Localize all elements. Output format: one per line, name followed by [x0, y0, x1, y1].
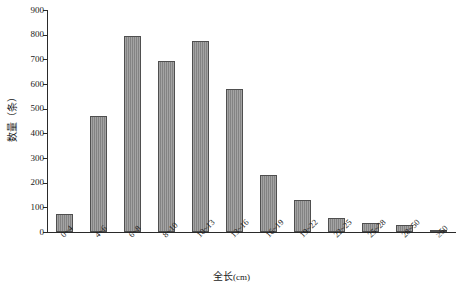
y-tick-label: 100: [18, 203, 44, 212]
y-tick-label: 300: [18, 154, 44, 163]
y-tick-mark: [43, 207, 47, 208]
y-tick-label: 400: [18, 129, 44, 138]
y-tick-mark: [43, 84, 47, 85]
plot-area: [47, 10, 456, 232]
y-tick-mark: [43, 35, 47, 36]
y-tick-mark: [43, 133, 47, 134]
bar: [226, 89, 243, 232]
y-tick-mark: [43, 10, 47, 11]
y-tick-mark: [43, 158, 47, 159]
y-tick-mark: [43, 109, 47, 110]
bars-layer: [47, 10, 456, 232]
bar: [90, 116, 107, 232]
bar: [192, 41, 209, 232]
x-axis-title: 全长(cm): [0, 268, 463, 283]
y-tick-label: 900: [18, 6, 44, 15]
x-axis-tick-labels: 0~44~66~88~1010~1313~1616~1919~2222~2525…: [47, 233, 456, 267]
y-tick-label: 0: [18, 228, 44, 237]
y-tick-label: 500: [18, 104, 44, 113]
y-tick-label: 700: [18, 55, 44, 64]
bar-chart: 数量（条） 0100200300400500600700800900 0~44~…: [0, 0, 463, 289]
y-axis-tick-labels: 0100200300400500600700800900: [18, 0, 44, 240]
bar: [158, 61, 175, 232]
y-axis-title-text: 数量（条）: [4, 91, 19, 141]
x-axis-title-text: 全长: [213, 271, 233, 282]
x-axis-title-unit: (cm): [233, 272, 250, 282]
y-tick-label: 600: [18, 80, 44, 89]
bar: [124, 36, 141, 232]
y-tick-mark: [43, 183, 47, 184]
y-tick-label: 800: [18, 30, 44, 39]
y-tick-mark: [43, 59, 47, 60]
y-tick-label: 200: [18, 178, 44, 187]
